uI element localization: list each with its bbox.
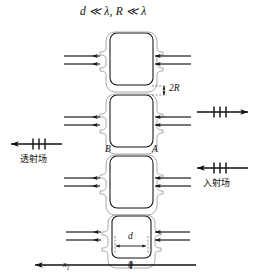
unit-cell-3 xyxy=(100,155,163,215)
radius-dimension-label: 2R xyxy=(169,84,180,94)
reflected-field-arrow xyxy=(197,107,248,118)
cell-2-feed-lines xyxy=(64,117,191,125)
unit-cell-1 xyxy=(100,32,163,92)
radius-dimension-marker xyxy=(152,86,167,95)
figure-title: d ≪ λ, R ≪ λ xyxy=(80,6,146,18)
incident-field-arrow xyxy=(197,163,248,174)
x-axis-subscript: 1 xyxy=(67,265,70,271)
gap-dimension-label: d xyxy=(128,232,133,242)
incident-field-label: 入射场 xyxy=(203,179,230,188)
transmitted-field-arrow xyxy=(11,139,62,150)
x-axis-label: x1 xyxy=(63,261,70,271)
transmitted-field-label: 透射场 xyxy=(20,155,47,164)
x-axis-origin-label: 0 xyxy=(128,261,133,271)
cell-3-feed-lines xyxy=(64,178,191,186)
node-a-label: A xyxy=(152,145,158,155)
cell-1-feed-lines xyxy=(64,56,191,64)
node-b-label: B xyxy=(105,145,111,155)
figure-canvas: d ≪ λ, R ≪ λ 2R d B A 透射场 入射场 x1 0 xyxy=(0,0,263,275)
